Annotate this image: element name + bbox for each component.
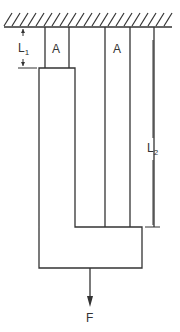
arrow-down-icon [87,296,93,307]
label-force: F [86,311,93,325]
l-shaped-block [39,68,142,268]
dimension-l2 [145,40,160,227]
diagram-canvas: L1 L2 A A F [0,0,180,332]
arrow-up-icon [21,29,25,33]
rods-l2 [105,27,154,227]
arrow-down-icon [21,62,25,66]
label-l2: L2 [147,141,159,157]
fixed-ceiling [4,13,172,27]
label-area-right: A [113,42,121,56]
label-area-left: A [52,42,60,56]
label-l1: L1 [18,41,30,57]
force-arrow [87,268,93,307]
